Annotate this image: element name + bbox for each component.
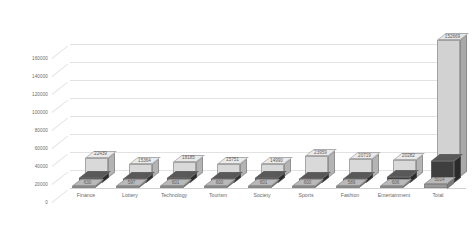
bar-groups: 6305625224395974327153646015460181856004… — [70, 26, 466, 188]
y-axis-tick-label: 80000 — [35, 128, 48, 133]
bar-value-label: 18185 — [177, 155, 200, 160]
category-label-lottery: Lottery — [122, 192, 138, 198]
bar-value-label: 600 — [208, 180, 231, 185]
chart-container: 1600001400001200001000008000060000400002… — [0, 0, 476, 233]
axis-baseline — [70, 188, 466, 189]
gridline-depth-edge — [52, 64, 68, 77]
category-label-sports: Sports — [299, 192, 314, 198]
bar-series-3-total[interactable]: 5014 — [424, 184, 447, 189]
y-axis-tick-label: 60000 — [35, 146, 48, 151]
category-label-finance: Finance — [77, 192, 95, 198]
bar-face — [116, 186, 139, 188]
bar-value-label: 22439 — [89, 151, 112, 156]
bar-value-label: 600 — [296, 180, 319, 185]
bar-value-label: 6425 — [391, 171, 414, 176]
bar-face — [336, 186, 359, 188]
bar-face — [204, 186, 227, 188]
bar-value-label: 4917 — [347, 172, 370, 177]
bar-value-label: 23959 — [309, 150, 332, 155]
y-axis-tick-label: 20000 — [35, 182, 48, 187]
bar-value-label: 14990 — [265, 158, 288, 163]
y-axis-tick-label: 0 — [45, 200, 48, 205]
bar-value-label: 152669 — [441, 34, 464, 39]
bar-value-label: 606 — [384, 180, 407, 185]
bar-value-label: 5460 — [171, 172, 194, 177]
bar-value-label: 630 — [76, 180, 99, 185]
gridline-depth-edge — [52, 190, 68, 203]
bar-series-3-fashion[interactable]: 589 — [336, 186, 359, 188]
bar-series-3-entertainment[interactable]: 606 — [380, 186, 403, 188]
bar-series-3-tourism[interactable]: 600 — [204, 186, 227, 188]
gridline-depth-edge — [52, 100, 68, 113]
bar-value-label: 597 — [120, 180, 143, 185]
bar-series-3-sports[interactable]: 600 — [292, 186, 315, 188]
gridline-depth-edge — [52, 118, 68, 131]
y-axis-tick-label: 160000 — [32, 56, 48, 61]
bar-series-3-finance[interactable]: 630 — [72, 186, 95, 188]
y-axis-tick-label: 100000 — [32, 110, 48, 115]
bar-series-3-lottery[interactable]: 597 — [116, 186, 139, 188]
bar-face — [380, 186, 403, 188]
category-axis-labels: FinanceLotteryTechnologyTourismSocietySp… — [70, 192, 476, 208]
bar-series-3-society[interactable]: 601 — [248, 186, 271, 188]
bar-face — [160, 186, 183, 188]
category-label-society: Society — [253, 192, 270, 198]
bar-face — [292, 186, 315, 188]
category-label-tourism: Tourism — [209, 192, 227, 198]
bar-face — [248, 186, 271, 188]
gridline-depth-edge — [52, 172, 68, 185]
bar-value-label: 4374 — [303, 173, 326, 178]
category-label-technology: Technology — [161, 192, 187, 198]
y-axis-tick-label: 120000 — [32, 92, 48, 97]
bar-value-label: 589 — [340, 180, 363, 185]
bar-value-label: 24651 — [435, 154, 458, 159]
gridline-depth-edge — [52, 154, 68, 167]
bar-value-label: 601 — [164, 180, 187, 185]
bar-value-label: 5625 — [83, 171, 106, 176]
category-label-entertainment: Entertainment — [378, 192, 410, 198]
bar-face — [424, 184, 447, 189]
bar-value-label: 20719 — [353, 153, 376, 158]
bar-value-label: 15364 — [133, 158, 156, 163]
bar-series-3-technology[interactable]: 601 — [160, 186, 183, 188]
bar-value-label: 5026 — [259, 172, 282, 177]
bar-side — [460, 35, 467, 178]
bar-value-label: 20282 — [397, 153, 420, 158]
bar-value-label: 4327 — [127, 173, 150, 178]
gridline-depth-edge — [52, 46, 68, 59]
gridline-depth-edge — [52, 82, 68, 95]
bar-value-label: 4781 — [215, 172, 238, 177]
category-label-fashion: Fashion — [341, 192, 359, 198]
y-axis-tick-label: 40000 — [35, 164, 48, 169]
gridline-depth-edge — [52, 136, 68, 149]
bar-value-label: 601 — [252, 180, 275, 185]
category-label-total: Total — [433, 192, 444, 198]
bar-face — [72, 186, 95, 188]
bar-value-label: 15751 — [221, 157, 244, 162]
bar-value-label: 5014 — [428, 177, 451, 182]
y-axis-tick-label: 140000 — [32, 74, 48, 79]
plot-area: 1600001400001200001000008000060000400002… — [52, 26, 466, 188]
